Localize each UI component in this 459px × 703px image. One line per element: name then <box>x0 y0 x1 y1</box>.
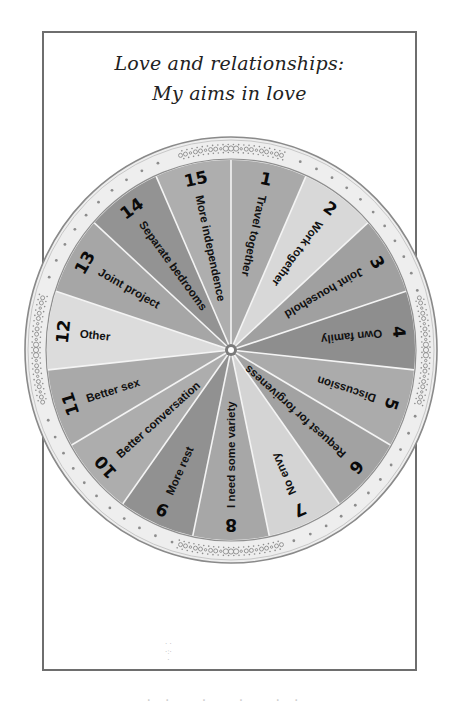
ring-dot <box>383 225 386 228</box>
segment-number: 4 <box>389 325 410 339</box>
ring-dot <box>379 478 382 481</box>
ring-dot <box>54 436 57 439</box>
ring-dot <box>331 176 334 179</box>
ring-dot <box>47 419 50 422</box>
ring-dot <box>416 289 419 292</box>
ring-dot <box>64 243 67 246</box>
ring-dot <box>402 255 405 258</box>
segment-label: I need some variety <box>225 401 237 508</box>
wheel-hub <box>225 344 237 356</box>
ring-dot <box>55 259 58 262</box>
ring-dot <box>345 186 348 189</box>
ring-dot <box>414 415 417 418</box>
hub-center <box>228 347 234 353</box>
ring-dot <box>394 239 397 242</box>
ring-dot <box>325 524 328 527</box>
ring-dot <box>138 527 141 530</box>
ring-dot <box>171 541 174 544</box>
ring-dot <box>108 507 111 510</box>
ring-dot <box>299 160 302 163</box>
ring-dot <box>97 201 100 204</box>
ring-dot <box>62 452 65 455</box>
ring-dot <box>315 167 318 170</box>
segment-number: 8 <box>225 515 237 535</box>
ring-dot <box>359 198 362 201</box>
ring-dot <box>85 214 88 217</box>
ring-dot <box>95 495 98 498</box>
ring-dot <box>309 533 312 536</box>
paper-specks: · ··:· · <box>165 640 172 664</box>
ring-dot <box>340 515 343 518</box>
ring-dot <box>72 467 75 470</box>
ring-dot <box>73 228 76 231</box>
ring-dot <box>123 517 126 520</box>
ring-dot <box>354 504 357 507</box>
aims-wheel: 1Travel together2Work together3Joint hou… <box>0 0 459 703</box>
ring-dot <box>140 169 143 172</box>
ring-dot <box>399 448 402 451</box>
ring-dot <box>157 162 160 165</box>
ring-dot <box>292 539 295 542</box>
ring-dot <box>111 189 114 192</box>
footer-partial-text: ·· · · ·· <box>0 692 459 703</box>
ring-dot <box>83 481 86 484</box>
segment-number: 12 <box>52 319 74 345</box>
ring-dot <box>125 178 128 181</box>
ring-dot <box>390 464 393 467</box>
ring-dot <box>410 272 413 275</box>
ring-dot <box>367 492 370 495</box>
ring-dot <box>154 534 157 537</box>
ring-dot <box>372 211 375 214</box>
ring-dot <box>407 432 410 435</box>
ring-dot <box>48 276 51 279</box>
